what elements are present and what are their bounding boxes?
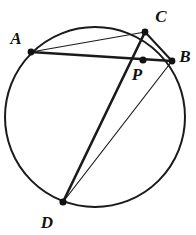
vertex-label-b: B	[178, 47, 190, 66]
vertex-point-c	[142, 29, 149, 36]
circle-chords-figure: A C B P D	[0, 0, 196, 235]
chord-b-d	[63, 61, 172, 202]
chord-c-b	[145, 32, 172, 61]
vertex-point-p	[139, 56, 146, 63]
vertex-label-c: C	[155, 7, 167, 26]
chord-a-c	[31, 32, 145, 52]
vertex-point-b	[169, 58, 176, 65]
chord-a-b	[31, 52, 172, 61]
vertex-label-a: A	[9, 29, 21, 48]
geometry-diagram: A C B P D	[0, 0, 196, 235]
vertex-point-d	[59, 198, 66, 205]
vertex-label-d: D	[40, 213, 53, 232]
vertex-point-a	[28, 49, 35, 56]
vertex-label-p: P	[131, 65, 143, 84]
